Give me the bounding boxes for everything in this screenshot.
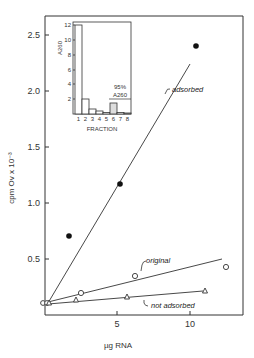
svg-text:2: 2 bbox=[84, 116, 88, 122]
y-tick-2.5: 2.5 bbox=[27, 30, 40, 40]
y-tick-0.5: 0.5 bbox=[27, 254, 40, 264]
series-original bbox=[41, 264, 229, 305]
svg-text:12: 12 bbox=[64, 22, 71, 28]
svg-text:6: 6 bbox=[112, 116, 116, 122]
inset-y-label: A260 bbox=[57, 40, 63, 55]
chart-figure: 0.5 1.0 1.5 2.0 2.5 5 10 µg RNA cpm Ov x… bbox=[0, 0, 254, 358]
svg-text:7: 7 bbox=[119, 116, 123, 122]
y-tick-1.0: 1.0 bbox=[27, 198, 40, 208]
svg-text:6: 6 bbox=[68, 67, 72, 73]
y-tick-1.5: 1.5 bbox=[27, 142, 40, 152]
svg-text:5: 5 bbox=[105, 116, 109, 122]
svg-text:4: 4 bbox=[68, 81, 72, 87]
x-axis-ticks bbox=[117, 311, 190, 315]
y-axis-ticks bbox=[45, 35, 49, 259]
x-axis-label: µg RNA bbox=[104, 341, 133, 350]
svg-text:8: 8 bbox=[68, 52, 72, 58]
annotation-original: original bbox=[146, 256, 171, 265]
inset-a260-label: A260 bbox=[113, 92, 128, 98]
svg-text:1: 1 bbox=[77, 116, 81, 122]
svg-text:2: 2 bbox=[68, 96, 72, 102]
inset-y-tick-labels: 2 4 6 8 10 12 bbox=[64, 22, 71, 102]
x-tick-10: 10 bbox=[185, 319, 195, 329]
y-axis-tick-labels: 0.5 1.0 1.5 2.0 2.5 bbox=[27, 30, 40, 264]
x-tick-5: 5 bbox=[114, 319, 119, 329]
original-fit-line bbox=[48, 259, 222, 302]
inset-chart: 2 4 6 8 10 12 A260 95% A260 1 2 3 4 5 bbox=[57, 22, 131, 132]
annotation-not-adsorbed: not adsorbed bbox=[151, 301, 196, 310]
inset-x-label: FRACTION bbox=[87, 126, 118, 132]
inset-x-tick-labels: 1 2 3 4 5 6 7 8 bbox=[77, 116, 130, 122]
svg-text:4: 4 bbox=[98, 116, 102, 122]
y-tick-2.0: 2.0 bbox=[27, 86, 40, 96]
inset-pct-label: 95% bbox=[114, 84, 127, 90]
svg-text:8: 8 bbox=[126, 116, 130, 122]
annotation-adsorbed: adsorbed bbox=[172, 85, 204, 94]
svg-text:10: 10 bbox=[64, 37, 71, 43]
y-axis-label: cpm Ov x 10⁻³ bbox=[7, 152, 16, 204]
svg-text:3: 3 bbox=[91, 116, 95, 122]
